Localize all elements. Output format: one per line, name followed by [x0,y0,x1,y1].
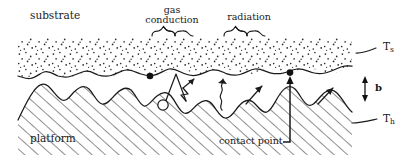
platform-temperature-subscript: h [390,117,395,126]
platform-temperature-label: Th [383,113,395,126]
radiation-squiggle-arrow-head [218,79,227,84]
substrate-temperature-label: Ts [383,41,394,54]
gap-dimension-arrow [362,76,368,102]
contact-point-label: contact point [219,136,283,146]
platform-label: platform [30,133,76,144]
platform-temperature-symbol: T [383,112,390,124]
gap-dimension-arrow-head-down [362,95,368,102]
substrate-temperature-symbol: T [383,40,390,52]
radiation-brace [224,27,265,37]
contact-point-dot-left [147,73,154,80]
substrate-temperature-subscript: s [390,45,394,54]
gas-molecule-icon [158,100,168,110]
gas-conduction-brace [152,27,193,37]
radiation-squiggle [220,79,223,110]
radiation-label: radiation [216,12,282,22]
heat-transfer-cross-section-figure: substrate platform gas conduction radiat… [0,0,411,155]
gas-conduction-label-line2: conduction [142,15,202,25]
gap-thickness-label: b [375,83,382,94]
gas-conduction-label: gas conduction [142,5,202,25]
contact-point-dot-right [287,69,294,76]
gas-conduction-arrow-head [188,79,194,85]
contact-point-leader-arrow-head [286,76,293,84]
substrate-label: substrate [30,10,80,21]
substrate-region [18,38,352,80]
platform-temperature-leader-line [352,119,377,123]
substrate-temperature-leader-line [356,48,376,53]
gap-dimension-arrow-head-up [362,76,368,83]
gas-conduction-brace-right [164,27,194,37]
radiation-brace-right [236,27,266,37]
